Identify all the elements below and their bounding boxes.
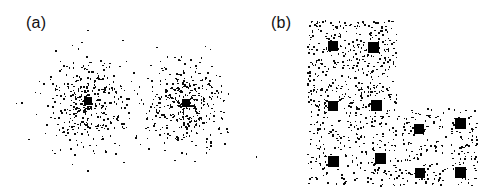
data-point (345, 53, 347, 55)
data-point (337, 169, 339, 171)
data-point (426, 126, 428, 128)
data-point (381, 118, 383, 120)
data-point (357, 87, 359, 89)
data-point (405, 159, 407, 161)
data-point (310, 99, 312, 101)
data-point (402, 178, 404, 180)
data-point (322, 51, 324, 53)
data-point (342, 61, 344, 63)
data-point (425, 183, 427, 185)
data-point (359, 34, 361, 36)
data-point (381, 30, 383, 32)
data-point (343, 136, 345, 138)
data-point (359, 146, 361, 148)
data-point (429, 117, 431, 119)
data-point (425, 164, 427, 166)
data-point (373, 126, 375, 128)
data-point (433, 172, 435, 174)
data-point (461, 182, 463, 184)
data-point (403, 143, 405, 145)
data-point (404, 123, 406, 125)
data-point (408, 142, 410, 144)
data-point (435, 175, 437, 177)
data-point (420, 146, 422, 148)
data-point (320, 124, 322, 126)
data-point (353, 50, 355, 52)
data-point (475, 127, 477, 129)
data-point (360, 40, 362, 42)
data-point (389, 150, 391, 152)
data-point (349, 25, 351, 27)
data-point (463, 147, 465, 149)
data-point (312, 30, 314, 32)
data-point (405, 170, 407, 172)
data-point (462, 178, 464, 180)
data-point (326, 172, 328, 174)
data-point (387, 90, 389, 92)
data-point (343, 178, 345, 180)
data-point (461, 151, 463, 153)
data-point (385, 51, 387, 53)
data-point (394, 101, 396, 103)
data-point (363, 72, 365, 74)
data-point (307, 84, 309, 86)
data-point (350, 49, 352, 51)
data-point (342, 67, 344, 69)
data-point (328, 86, 330, 88)
data-point (363, 104, 365, 106)
data-point (393, 165, 395, 167)
centroid-5-marker (414, 124, 424, 134)
data-point (338, 147, 340, 149)
data-point (420, 154, 422, 156)
data-point (346, 112, 348, 114)
data-point (356, 178, 358, 180)
data-point (330, 85, 332, 87)
data-point (323, 175, 325, 177)
data-point (324, 148, 326, 150)
data-point (397, 118, 399, 120)
data-point (312, 63, 314, 65)
data-point (348, 137, 350, 139)
data-point (356, 65, 358, 67)
data-point (336, 91, 338, 93)
data-point (339, 33, 341, 35)
data-point (454, 150, 456, 152)
data-point (341, 174, 343, 176)
data-point (336, 64, 338, 66)
data-point (360, 114, 362, 116)
data-point (448, 108, 450, 110)
data-point (459, 164, 461, 166)
data-point (313, 91, 315, 93)
centroid-3-marker (328, 101, 338, 111)
data-point (461, 136, 463, 138)
data-point (333, 37, 335, 39)
data-point (456, 131, 458, 133)
data-point (474, 110, 476, 112)
data-point (352, 160, 354, 162)
data-point (355, 115, 357, 117)
data-point (386, 113, 388, 115)
data-point (367, 86, 369, 88)
data-point (320, 63, 322, 65)
data-point (396, 95, 398, 97)
data-point (470, 116, 472, 118)
data-point (364, 61, 366, 63)
data-point (346, 84, 348, 86)
data-point (442, 180, 444, 182)
data-point (315, 73, 317, 75)
data-point (317, 132, 319, 134)
data-point (352, 155, 354, 157)
data-point (339, 99, 341, 101)
data-point (407, 159, 409, 161)
data-point (356, 28, 358, 30)
data-point (434, 178, 436, 180)
data-point (366, 74, 368, 76)
data-point (307, 154, 309, 156)
data-point (463, 162, 465, 164)
data-point (325, 74, 327, 76)
data-point (313, 133, 315, 135)
data-point (357, 128, 359, 130)
data-point (378, 167, 380, 169)
data-point (313, 100, 315, 102)
data-point (350, 112, 352, 114)
